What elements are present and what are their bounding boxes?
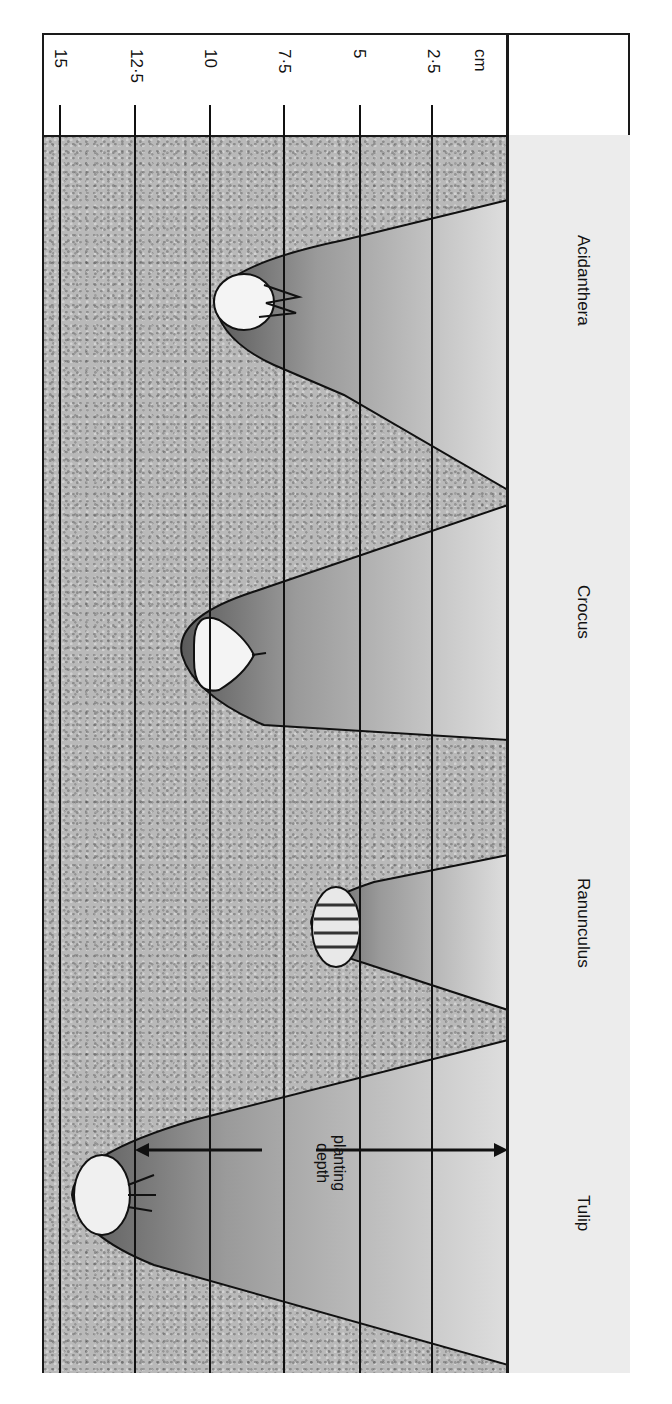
hole-tulip (72, 1040, 508, 1365)
plant-label-ranunculus: Ranunculus (573, 878, 593, 968)
depth-line-10 (209, 105, 211, 1373)
depth-line-2-5 (431, 105, 433, 1373)
soil-surface-line (506, 35, 509, 1373)
tick-label-12-5: 12·5 (126, 49, 146, 83)
plant-label-tulip: Tulip (573, 1195, 593, 1231)
diagram-frame: cm 2·5 5 7·5 10 12·5 15 Acidanthera Croc… (42, 33, 630, 1373)
hole-crocus (181, 505, 508, 740)
depth-line-7-5 (283, 105, 285, 1373)
tick-label-7-5: 7·5 (274, 49, 294, 74)
annotation-line-2: depth (314, 1135, 331, 1191)
tick-label-10: 10 (200, 49, 220, 68)
planting-depth-annotation: planting depth (314, 1135, 348, 1191)
depth-line-12-5 (134, 105, 136, 1373)
depth-line-5 (359, 105, 361, 1373)
plant-label-crocus: Crocus (573, 585, 593, 639)
depth-line-15 (59, 105, 61, 1373)
plant-label-acidanthera: Acidanthera (573, 235, 593, 326)
hole-acidanthera (214, 200, 508, 490)
tick-label-5: 5 (349, 49, 369, 58)
bulb-ranunculus-icon (312, 887, 360, 967)
units-label: cm (470, 49, 490, 72)
tick-label-2-5: 2·5 (423, 49, 443, 74)
annotation-line-1: planting (331, 1135, 348, 1191)
tick-label-15: 15 (50, 49, 70, 68)
